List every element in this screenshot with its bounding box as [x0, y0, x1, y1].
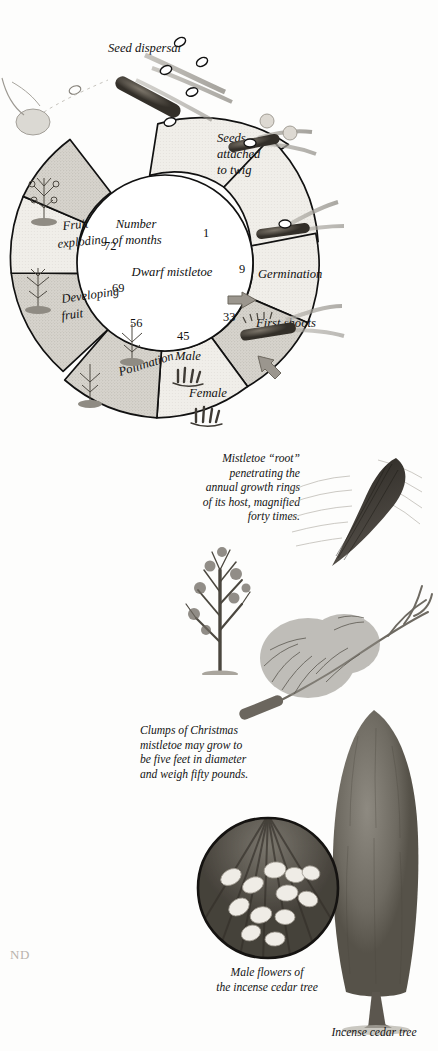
- caption-male-flowers: Male flowers of the incense cedar tree: [172, 966, 362, 995]
- male-flowers-circular-inset: [195, 815, 341, 961]
- dwarf-mistletoe-life-cycle-diagram: Number of months Dwarf mistletoe 1 9 33 …: [0, 20, 390, 440]
- label-seed-dispersal: Seed dispersal: [108, 41, 182, 55]
- section-heading: ND: [10, 947, 30, 963]
- seed-burst-illustration: [0, 78, 108, 135]
- page-root: Number of months Dwarf mistletoe 1 9 33 …: [0, 0, 438, 1051]
- label-fruit-exploding-line1: Fruit: [61, 216, 90, 233]
- body-paragraph-5: e destructive ne mistletoe ar-old cedar: [0, 996, 82, 1045]
- body-paragraph-1: on, it usually ing out any tiny, closed …: [0, 433, 82, 498]
- cycle-axis-caption-line1: Number: [115, 217, 157, 231]
- caption-mistletoe-root: Mistletoe “root” penetrating the annual …: [150, 452, 300, 525]
- body-paragraph-4: ic germs are ey both wait ntlessly feed …: [0, 795, 82, 925]
- month-number-1: 1: [203, 226, 209, 240]
- label-seeds-attached-line3: to twig: [217, 163, 252, 177]
- body-paragraph-2: ring the late Mistletoe is ntil a nearby…: [0, 517, 82, 598]
- label-male: Male: [174, 349, 201, 363]
- month-number-33: 33: [223, 310, 235, 324]
- mistletoe-root-illustration: [286, 452, 426, 577]
- month-number-9: 9: [239, 262, 245, 276]
- cycle-axis-caption-line2: of months: [112, 233, 161, 247]
- month-number-45: 45: [177, 329, 189, 343]
- label-female: Female: [188, 386, 227, 400]
- caption-clumps-of-christmas-mistletoe: Clumps of Christmas mistletoe may grow t…: [140, 724, 318, 782]
- body-paragraph-3: ns only one s perfect for hat transport …: [0, 625, 82, 690]
- caption-incense-cedar-tree: Incense cedar tree: [310, 1026, 438, 1041]
- cycle-center-title: Dwarf mistletoe: [131, 265, 213, 279]
- plant-icon-female-flowers: [191, 407, 222, 426]
- label-germination: Germination: [258, 267, 322, 281]
- cycle-hub: [77, 175, 253, 351]
